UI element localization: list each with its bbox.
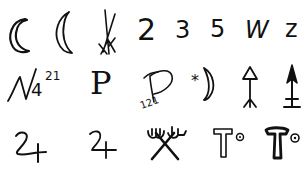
n-glyph-superscript: 21 — [45, 69, 60, 83]
crescent-thin-icon — [52, 10, 74, 55]
arrow-double-bar-icon — [282, 63, 302, 109]
crescent-right-icon — [202, 66, 216, 102]
serif-p: P — [90, 66, 112, 100]
crossed-tridents-icon — [144, 123, 188, 163]
n-glyph-four: 4 — [31, 80, 42, 100]
jupiter-cursive-icon — [12, 130, 48, 164]
crescent-outline-icon — [5, 15, 31, 55]
digit-five: 5 — [210, 15, 225, 43]
t-circle-bold-icon — [264, 124, 302, 162]
letter-z: z — [285, 16, 298, 42]
arrow-triangle-forked-icon — [240, 65, 260, 109]
digit-three: 3 — [175, 16, 190, 44]
jupiter-plain-icon — [88, 130, 120, 160]
letter-w: W — [245, 17, 269, 43]
t-circle-outline-icon — [212, 125, 246, 161]
crossed-strokes-icon — [97, 8, 119, 56]
star-glyph: * — [191, 72, 199, 90]
symbol-sheet: 2 3 5 W z 4 21 P 121 * — [0, 0, 307, 172]
digit-two: 2 — [137, 15, 156, 45]
